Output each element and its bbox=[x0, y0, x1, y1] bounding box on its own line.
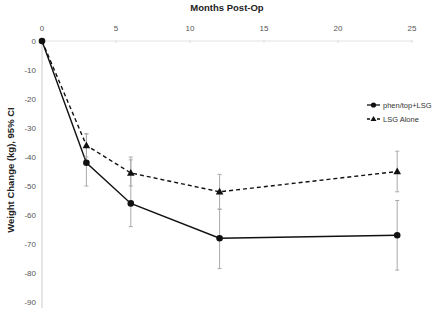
y-tick-label: -70 bbox=[24, 240, 36, 249]
triangle-marker-icon bbox=[393, 168, 401, 175]
x-tick-label: 25 bbox=[408, 24, 417, 33]
y-tick-label: 0 bbox=[32, 37, 37, 46]
x-tick-label: 0 bbox=[40, 24, 45, 33]
y-tick-label: -20 bbox=[24, 95, 36, 104]
y-tick-label: -90 bbox=[24, 298, 36, 307]
y-tick-label: -40 bbox=[24, 153, 36, 162]
triangle-marker-icon bbox=[83, 141, 91, 148]
x-tick-label: 5 bbox=[114, 24, 119, 33]
x-tick-label: 20 bbox=[334, 24, 343, 33]
y-axis-title: Weight Change (kg), 95% CI bbox=[5, 107, 16, 232]
y-tick-label: -10 bbox=[24, 66, 36, 75]
y-tick-label: -60 bbox=[24, 211, 36, 220]
legend: phen/top+LSG LSG Alone bbox=[367, 101, 432, 124]
triangle-marker-icon bbox=[127, 169, 135, 176]
y-tick-label: -80 bbox=[24, 269, 36, 278]
y-tick-label: -50 bbox=[24, 182, 36, 191]
line-chart: Months Post-Op Weight Change (kg), 95% C… bbox=[0, 0, 442, 314]
axes: 05101520250-10-20-30-40-50-60-70-80-90 bbox=[24, 24, 417, 308]
legend-label-phen-top-lsg: phen/top+LSG bbox=[383, 101, 432, 110]
y-tick-label: -30 bbox=[24, 124, 36, 133]
circle-marker-icon bbox=[371, 102, 376, 107]
series-phen-top-lsg bbox=[39, 38, 401, 270]
x-axis-title: Months Post-Op bbox=[190, 2, 264, 13]
series-group bbox=[39, 38, 401, 270]
circle-marker-icon bbox=[128, 200, 135, 207]
x-tick-label: 15 bbox=[260, 24, 269, 33]
triangle-marker-icon bbox=[371, 116, 377, 121]
x-tick-label: 10 bbox=[186, 24, 195, 33]
series-lsg-alone bbox=[42, 41, 401, 209]
legend-label-lsg-alone: LSG Alone bbox=[383, 115, 419, 124]
circle-marker-icon bbox=[394, 232, 401, 239]
circle-marker-icon bbox=[216, 235, 223, 242]
circle-marker-icon bbox=[83, 160, 90, 167]
